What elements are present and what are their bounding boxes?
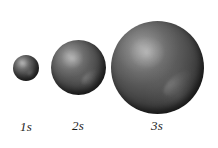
orbital-size-diagram: 1s 2s 3s bbox=[0, 0, 218, 148]
specular-highlight-icon bbox=[130, 37, 164, 68]
orbital-label-2s: 2s bbox=[58, 119, 98, 133]
reflection-crescent-icon bbox=[159, 66, 196, 100]
orbital-label-3s-text: 3s bbox=[151, 118, 163, 133]
specular-highlight-icon bbox=[18, 59, 28, 68]
orbital-label-2s-text: 2s bbox=[72, 118, 84, 133]
orbital-label-1s-text: 1s bbox=[20, 119, 32, 134]
orbital-label-3s: 3s bbox=[137, 119, 177, 133]
reflection-crescent-icon bbox=[26, 68, 36, 77]
sphere-1s bbox=[13, 55, 39, 81]
specular-highlight-icon bbox=[62, 49, 83, 68]
orbital-label-1s: 1s bbox=[6, 120, 46, 134]
sphere-2s bbox=[51, 40, 106, 95]
reflection-crescent-icon bbox=[79, 67, 101, 87]
sphere-3s bbox=[111, 21, 204, 114]
